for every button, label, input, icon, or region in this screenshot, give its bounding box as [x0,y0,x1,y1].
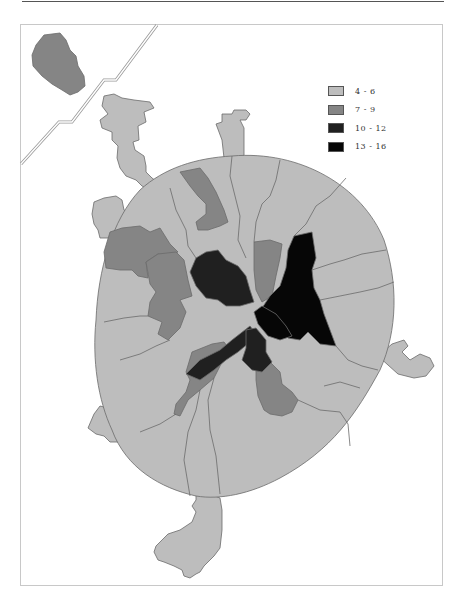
legend-label: 13 - 16 [355,142,387,151]
legend-swatch-black [328,142,344,152]
choropleth-map [0,0,462,604]
main-city-body [95,155,394,497]
legend-label: 7 - 9 [355,105,375,114]
inset-region [32,33,85,95]
legend-item-10-12: 10 - 12 [328,119,387,138]
legend-swatch-dark [328,123,344,133]
legend-item-7-9: 7 - 9 [328,101,387,120]
legend-swatch-medium [328,105,344,115]
legend: 4 - 6 7 - 9 10 - 12 13 - 16 [328,82,387,156]
legend-swatch-light [328,86,344,96]
legend-item-4-6: 4 - 6 [328,82,387,101]
legend-label: 4 - 6 [355,87,375,96]
legend-label: 10 - 12 [355,124,387,133]
legend-item-13-16: 13 - 16 [328,138,387,157]
